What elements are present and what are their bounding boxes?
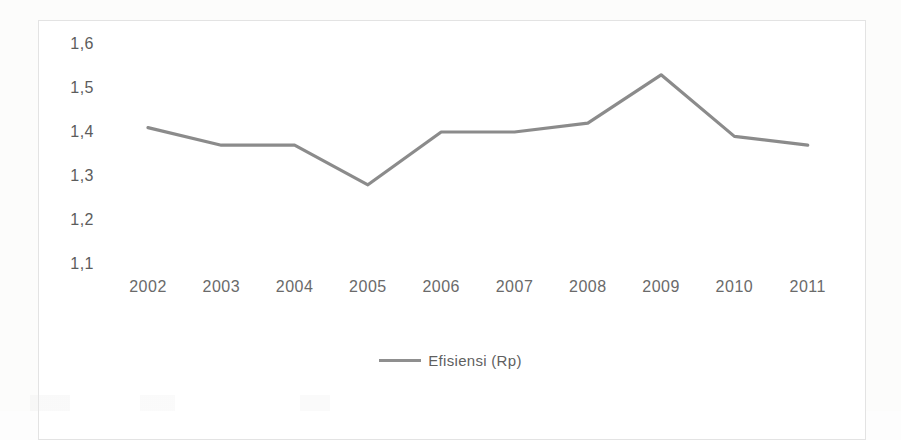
y-axis: 1,61,51,41,31,21,1 (48, 0, 94, 411)
x-axis-tick-label: 2010 (716, 278, 754, 296)
plot-area (38, 20, 866, 280)
scan-artifact (0, 395, 901, 411)
x-axis-tick-label: 2002 (129, 278, 167, 296)
x-axis-tick-label: 2007 (496, 278, 534, 296)
line-chart-svg (38, 20, 866, 280)
y-axis-tick-label: 1,1 (48, 255, 94, 273)
x-axis: 2002200320042005200620072008200920102011 (0, 278, 901, 308)
chart-legend: Efisiensi (Rp) (0, 352, 901, 369)
legend-line-marker (379, 359, 421, 362)
x-axis-tick-label: 2006 (422, 278, 460, 296)
x-axis-tick-label: 2008 (569, 278, 607, 296)
y-axis-tick-label: 1,4 (48, 123, 94, 141)
x-axis-tick-label: 2005 (349, 278, 387, 296)
x-axis-tick-label: 2009 (642, 278, 680, 296)
series-line-efisiensi (148, 75, 808, 185)
y-axis-tick-label: 1,3 (48, 167, 94, 185)
y-axis-tick-label: 1,6 (48, 35, 94, 53)
legend-label-efisiensi: Efisiensi (Rp) (428, 352, 521, 369)
x-axis-tick-label: 2003 (203, 278, 241, 296)
x-axis-tick-label: 2011 (789, 278, 825, 296)
y-axis-tick-label: 1,5 (48, 79, 94, 97)
y-axis-tick-label: 1,2 (48, 211, 94, 229)
x-axis-tick-label: 2004 (276, 278, 314, 296)
